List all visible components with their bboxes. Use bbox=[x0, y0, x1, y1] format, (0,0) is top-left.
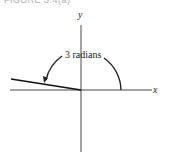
x-axis-label: x bbox=[152, 84, 158, 95]
angle-diagram: 3 radians x y bbox=[0, 0, 174, 160]
y-axis-label: y bbox=[77, 9, 83, 20]
angle-arc-left bbox=[46, 56, 62, 80]
angle-arc-right bbox=[104, 58, 121, 90]
angle-label: 3 radians bbox=[65, 49, 101, 60]
terminal-ray bbox=[11, 79, 81, 90]
